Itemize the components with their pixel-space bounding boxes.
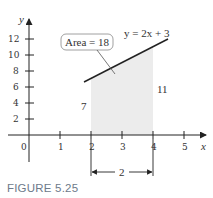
x-axis-label: x (200, 140, 206, 152)
y-tick-label-4: 4 (13, 98, 19, 108)
figure-diagram: 0 1 2 3 4 5 x 2 4 6 8 10 12 y y = 2x + 3… (0, 0, 213, 198)
y-tick-label-2: 2 (13, 114, 19, 124)
x-tick-label-5: 5 (182, 142, 188, 152)
x-tick-label-3: 3 (120, 142, 126, 152)
y-tick-label-6: 6 (13, 82, 19, 92)
x-tick-label-2: 2 (89, 142, 95, 152)
y-tick-label-8: 8 (13, 66, 19, 76)
y-tick-label-10: 10 (8, 50, 20, 60)
figure-caption: FIGURE 5.25 (7, 182, 78, 194)
area-label: Area = 18 (65, 36, 110, 48)
x-tick-label-0: 0 (21, 142, 27, 152)
x-tick-label-1: 1 (58, 142, 64, 152)
equation-label: y = 2x + 3 (124, 27, 170, 39)
y-axis-label: y (18, 13, 24, 25)
right-height-label: 11 (157, 83, 168, 95)
x-tick-label-4: 4 (151, 142, 157, 152)
width-label: 2 (119, 166, 125, 178)
shaded-area-region (91, 47, 153, 135)
y-tick-label-12: 12 (8, 34, 19, 44)
left-height-label: 7 (81, 100, 87, 112)
